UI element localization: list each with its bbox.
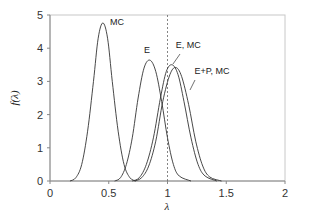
x-axis-title: λ (164, 200, 170, 212)
x-tick-label: 1 (164, 187, 170, 199)
y-axis-title: f(λ) (8, 90, 21, 105)
chart: 012345 00.511.52 MCEE, MCE+P, MC λ f(λ) (0, 0, 311, 224)
y-tick-label: 1 (37, 142, 43, 154)
y-tick-label: 2 (37, 109, 43, 121)
x-tick-label: 1.5 (219, 187, 234, 199)
x-tick-label: 0 (47, 187, 53, 199)
x-tick-label: 2 (282, 187, 288, 199)
annotation-label: E (144, 45, 150, 55)
x-tick-label: 0.5 (101, 187, 116, 199)
x-axis: 00.511.52 (47, 181, 288, 199)
y-tick-label: 5 (37, 9, 43, 21)
annotation-label: E+P, MC (195, 66, 231, 76)
y-tick-label: 0 (37, 175, 43, 187)
annotation-label: E, MC (176, 40, 202, 50)
y-axis: 012345 (37, 9, 50, 187)
y-tick-label: 4 (37, 42, 43, 54)
y-tick-label: 3 (37, 75, 43, 87)
annotation-label: MC (110, 17, 124, 27)
